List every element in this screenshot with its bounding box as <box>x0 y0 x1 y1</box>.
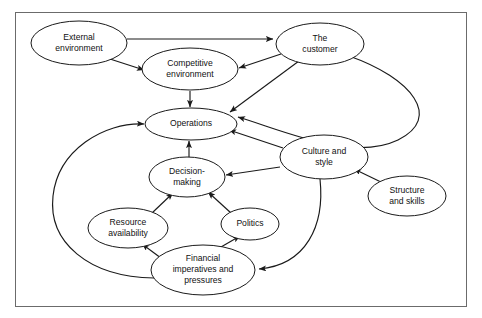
node-label-decision-making: Decision-making <box>169 166 205 187</box>
node-resource-availability[interactable]: Resourceavailability <box>88 208 168 248</box>
node-label-line: Financial <box>186 253 220 263</box>
node-label-line: Decision- <box>169 166 205 176</box>
node-label-resource-availability: Resourceavailability <box>108 217 148 238</box>
diagram-root: ExternalenvironmentCompetitiveenvironmen… <box>0 0 482 318</box>
diagram-canvas: ExternalenvironmentCompetitiveenvironmen… <box>0 0 482 318</box>
node-culture-and-style[interactable]: Culture andstyle <box>280 135 368 179</box>
node-label-line: style <box>315 157 333 167</box>
node-label-line: Resource <box>110 217 147 227</box>
node-financial-imperatives[interactable]: Financialimperatives andpressures <box>151 245 255 295</box>
node-label-line: The <box>313 33 328 43</box>
node-label-line: making <box>173 177 201 187</box>
node-label-line: External <box>63 32 95 42</box>
node-label-line: pressures <box>184 275 222 285</box>
node-label-politics: Politics <box>236 218 263 228</box>
node-politics[interactable]: Politics <box>221 208 279 240</box>
node-label-line: and skills <box>389 196 424 206</box>
node-external-environment[interactable]: Externalenvironment <box>31 21 127 65</box>
node-the-customer[interactable]: Thecustomer <box>276 23 364 65</box>
node-label-line: Culture and <box>302 146 347 156</box>
node-label-line: imperatives and <box>173 264 234 274</box>
node-operations[interactable]: Operations <box>145 108 237 140</box>
node-label-line: environment <box>55 43 103 53</box>
node-competitive-environment[interactable]: Competitiveenvironment <box>142 48 238 90</box>
node-label-line: Operations <box>170 118 212 128</box>
node-label-line: Politics <box>236 218 263 228</box>
node-label-line: Structure <box>390 185 425 195</box>
node-decision-making[interactable]: Decision-making <box>149 157 225 197</box>
node-label-operations: Operations <box>170 118 212 128</box>
node-label-line: customer <box>302 44 337 54</box>
node-structure-and-skills[interactable]: Structureand skills <box>368 176 446 216</box>
node-label-structure-and-skills: Structureand skills <box>389 185 424 206</box>
node-label-line: availability <box>108 228 148 238</box>
node-label-line: Competitive <box>167 58 213 68</box>
node-label-competitive-environment: Competitiveenvironment <box>166 58 214 79</box>
node-label-line: environment <box>166 69 214 79</box>
